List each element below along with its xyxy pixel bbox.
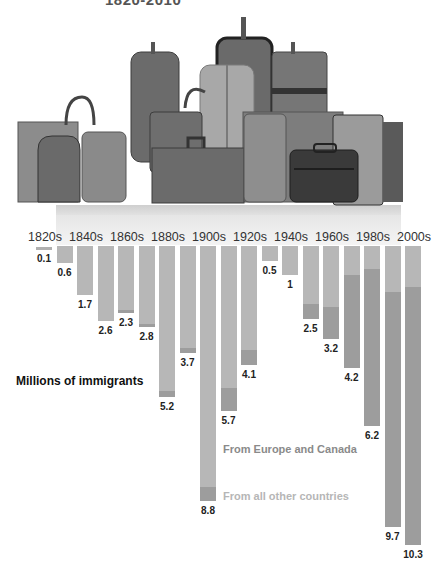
segment-europe-canada <box>221 246 237 388</box>
value-label: 9.7 <box>378 531 408 542</box>
legend-europe-canada: From Europe and Canada <box>223 443 357 455</box>
bar-2000s <box>405 246 421 545</box>
segment-europe-canada <box>200 246 216 487</box>
segment-other-countries <box>385 292 401 527</box>
segment-other-countries <box>139 324 155 327</box>
value-label: 10.3 <box>398 549 428 560</box>
value-label: 0.5 <box>255 265 285 276</box>
value-label: 5.2 <box>152 401 182 412</box>
bar-1820s <box>36 247 52 250</box>
segment-europe-canada <box>180 246 196 348</box>
value-label: 5.7 <box>214 415 244 426</box>
suitcases-illustration-icon <box>0 0 441 225</box>
decade-band <box>56 215 401 245</box>
segment-europe-canada <box>364 246 380 269</box>
value-label: 1 <box>275 279 305 290</box>
y-axis-label: Millions of immigrants <box>16 374 143 388</box>
decade-label: 2000s <box>397 230 431 244</box>
segment-europe-canada <box>57 246 73 263</box>
segment-europe-canada <box>159 246 175 391</box>
value-label: 0.1 <box>29 253 59 264</box>
segment-other-countries <box>221 388 237 411</box>
decade-label: 1900s <box>192 230 226 244</box>
legend-other-countries: From all other countries <box>223 490 349 502</box>
segment-europe-canada <box>77 246 93 295</box>
segment-europe-canada <box>344 246 360 275</box>
segment-europe-canada <box>241 246 257 350</box>
value-label: 3.2 <box>316 343 346 354</box>
segment-europe-canada <box>98 246 114 321</box>
bar-1890s <box>180 246 196 353</box>
segment-europe-canada <box>139 246 155 324</box>
segment-other-countries <box>344 275 360 368</box>
bar-1850s <box>98 246 114 321</box>
bar-1930s <box>262 246 278 261</box>
segment-europe-canada <box>405 246 421 287</box>
segment-other-countries <box>159 391 175 397</box>
bar-1880s <box>159 246 175 397</box>
value-label: 0.6 <box>50 267 80 278</box>
segment-other-countries <box>364 269 380 426</box>
value-label: 2.8 <box>132 331 162 342</box>
bar-1900s <box>200 246 216 501</box>
value-label: 2.5 <box>296 323 326 334</box>
segment-europe-canada <box>118 246 134 310</box>
suitcases-photo <box>0 0 441 225</box>
segment-europe-canada <box>262 246 278 261</box>
decade-label: 1840s <box>69 230 103 244</box>
bar-1960s <box>323 246 339 339</box>
bar-1910s <box>221 246 237 411</box>
decade-label: 1820s <box>28 230 62 244</box>
segment-other-countries <box>180 348 196 354</box>
segment-other-countries <box>303 304 319 319</box>
bar-1970s <box>344 246 360 368</box>
bar-1860s <box>118 246 134 313</box>
value-label: 3.7 <box>173 357 203 368</box>
bar-1950s <box>303 246 319 319</box>
segment-europe-canada <box>385 246 401 292</box>
segment-europe-canada <box>323 246 339 307</box>
decade-label: 1980s <box>356 230 390 244</box>
decade-label: 1920s <box>233 230 267 244</box>
value-label: 8.8 <box>193 505 223 516</box>
value-label: 2.3 <box>111 317 141 328</box>
decade-label: 1940s <box>274 230 308 244</box>
decade-label: 1860s <box>110 230 144 244</box>
segment-europe-canada <box>303 246 319 304</box>
bar-1840s <box>77 246 93 295</box>
value-label: 6.2 <box>357 430 387 441</box>
value-label: 4.2 <box>337 372 367 383</box>
segment-other-countries <box>323 307 339 339</box>
bar-1980s <box>364 246 380 426</box>
bar-1870s <box>139 246 155 327</box>
bar-1830s <box>57 246 73 263</box>
segment-other-countries <box>118 310 134 313</box>
bar-1940s <box>282 246 298 275</box>
bar-1990s <box>385 246 401 527</box>
value-label: 1.7 <box>70 299 100 310</box>
chart-title: 1820-2010 <box>105 0 181 8</box>
decade-label: 1880s <box>151 230 185 244</box>
segment-other-countries <box>405 287 421 545</box>
segment-other-countries <box>200 487 216 502</box>
value-label: 4.1 <box>234 369 264 380</box>
segment-europe-canada <box>282 246 298 275</box>
segment-other-countries <box>241 350 257 365</box>
decade-label: 1960s <box>315 230 349 244</box>
